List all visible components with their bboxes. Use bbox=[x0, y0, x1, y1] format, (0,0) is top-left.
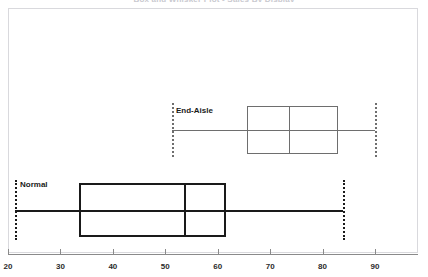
x-tick-50 bbox=[165, 249, 166, 255]
x-tick-90 bbox=[375, 249, 376, 255]
x-tick-label-20: 20 bbox=[4, 262, 13, 271]
x-tick-60 bbox=[218, 249, 219, 255]
box-iqr bbox=[79, 183, 226, 237]
x-tick-30 bbox=[60, 249, 61, 255]
x-tick-label-30: 30 bbox=[56, 262, 65, 271]
x-tick-label-80: 80 bbox=[318, 262, 327, 271]
x-tick-label-40: 40 bbox=[108, 262, 117, 271]
series-label-normal: Normal bbox=[20, 180, 48, 189]
x-tick-40 bbox=[113, 249, 114, 255]
x-tick-20 bbox=[8, 249, 9, 255]
boxplot-normal: Normal bbox=[0, 0, 428, 277]
x-tick-label-90: 90 bbox=[371, 262, 380, 271]
chart-canvas: Box and Whisker Plot - Sales By Display … bbox=[0, 0, 428, 277]
x-tick-80 bbox=[323, 249, 324, 255]
x-tick-70 bbox=[270, 249, 271, 255]
x-tick-label-50: 50 bbox=[161, 262, 170, 271]
x-axis-line bbox=[8, 254, 418, 255]
x-tick-label-70: 70 bbox=[266, 262, 275, 271]
whisker-cap-low bbox=[15, 180, 17, 240]
median-line bbox=[184, 183, 186, 237]
whisker-cap-high bbox=[343, 180, 345, 240]
x-tick-label-60: 60 bbox=[213, 262, 222, 271]
